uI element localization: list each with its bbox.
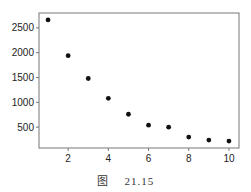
x-tick-label: 6 [146,153,152,164]
data-point [86,76,91,81]
caption-number: 21.15 [125,175,155,187]
y-tick-label: 2500 [12,22,35,33]
plot-frame [39,13,239,148]
y-tick-label: 1000 [12,97,35,108]
data-point [146,123,151,128]
caption-prefix: 图 [97,175,109,187]
y-tick-label: 2000 [12,47,35,58]
data-point [166,125,171,130]
figure-caption: 图 21.15 [0,172,251,188]
y-tick-label: 1500 [12,72,35,83]
y-tick-label: 500 [17,122,34,133]
data-point [106,96,111,101]
data-point [66,53,71,58]
data-point [206,138,211,143]
data-point [126,112,131,117]
data-point [46,18,51,23]
data-point [186,135,191,140]
x-tick-label: 10 [223,153,235,164]
x-tick-label: 2 [65,153,71,164]
x-tick-label: 4 [106,153,112,164]
data-point [227,139,232,144]
x-tick-label: 8 [186,153,192,164]
scatter-plot: 5001000150020002500246810 [0,0,251,170]
